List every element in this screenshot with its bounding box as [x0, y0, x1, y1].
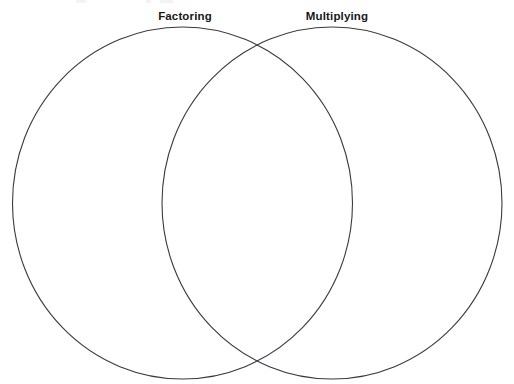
venn-diagram-page: Factoring Multiplying [0, 0, 514, 384]
venn-circle-right[interactable] [162, 27, 502, 379]
venn-circle-left[interactable] [13, 27, 353, 379]
venn-diagram-canvas [0, 0, 514, 384]
venn-circle-right-label: Multiplying [272, 9, 402, 23]
venn-circle-left-label: Factoring [125, 9, 245, 23]
